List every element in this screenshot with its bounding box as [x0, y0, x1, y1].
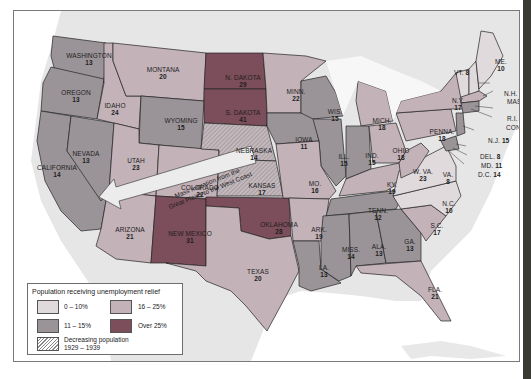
legend-swatch-16-25	[110, 300, 132, 314]
legend-label-11-15: 11 – 15%	[64, 322, 91, 329]
legend-swatch-over-25	[110, 319, 132, 333]
legend-label-16-25: 16 – 25%	[138, 303, 165, 310]
legend-title: Population receiving unemployment relief	[32, 288, 160, 295]
legend-label-decreasing: Decreasing population1929 – 1939	[64, 336, 129, 351]
legend-swatch-11-15	[37, 319, 59, 333]
legend-swatch-0-10	[37, 300, 59, 314]
map-legend: Population receiving unemployment relief…	[27, 283, 183, 355]
legend-swatch-decreasing	[37, 337, 59, 351]
page-edge	[523, 0, 531, 379]
legend-label-over-25: Over 25%	[138, 322, 167, 329]
legend-label-0-10: 0 – 10%	[64, 303, 88, 310]
